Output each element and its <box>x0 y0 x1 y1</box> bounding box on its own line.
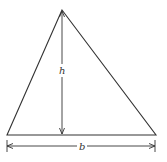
height-dimension: h <box>57 11 67 134</box>
base-dimension: b <box>7 139 155 152</box>
triangle-shape <box>7 10 156 135</box>
triangle-diagram: h b <box>0 0 167 162</box>
height-label: h <box>59 65 65 76</box>
base-label: b <box>79 141 85 152</box>
